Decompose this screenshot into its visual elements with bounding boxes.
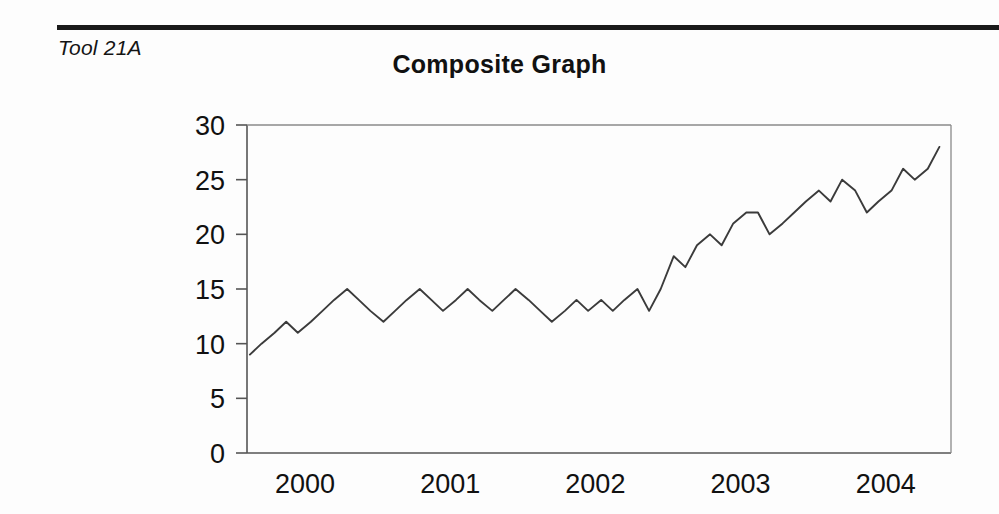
- x-tick-label: 2002: [565, 469, 625, 499]
- y-tick-label: 20: [195, 220, 225, 250]
- y-tick-label: 15: [195, 275, 225, 305]
- chart-area: 051015202530 20002001200220032004: [0, 0, 999, 514]
- x-tick-label: 2001: [420, 469, 480, 499]
- x-tick-label: 2003: [710, 469, 770, 499]
- y-tick-label: 0: [210, 439, 225, 469]
- y-tick-label: 25: [195, 166, 225, 196]
- y-tick-label: 5: [210, 384, 225, 414]
- y-axis-tick-labels: 051015202530: [195, 111, 225, 469]
- document-page: Tool 21A Composite Graph 051015202530 20…: [0, 0, 999, 514]
- y-tick-label: 30: [195, 111, 225, 141]
- y-tick-label: 10: [195, 330, 225, 360]
- series-composite-line: [250, 147, 939, 355]
- plot-frame: [247, 125, 951, 453]
- composite-line-chart: 051015202530 20002001200220032004: [0, 0, 999, 514]
- x-axis-tick-labels: 20002001200220032004: [275, 469, 916, 499]
- y-axis-tick-marks: [236, 125, 247, 453]
- x-tick-label: 2004: [856, 469, 916, 499]
- x-tick-label: 2000: [275, 469, 335, 499]
